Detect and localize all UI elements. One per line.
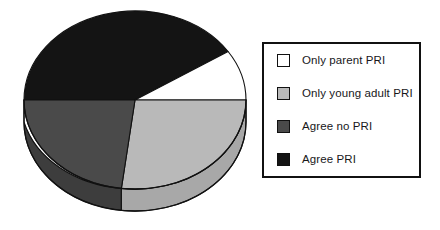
legend-label-only-young-adult-pri: Only young adult PRI xyxy=(302,88,413,100)
legend-item-only-young-adult-pri[interactable]: Only young adult PRI xyxy=(277,77,419,110)
legend-label-agree-pri: Agree PRI xyxy=(302,154,356,166)
chart-legend: Only parent PRI Only young adult PRI Agr… xyxy=(262,42,421,178)
pie-chart-figure: Only parent PRI Only young adult PRI Agr… xyxy=(0,0,440,230)
pie-slice-only-young-adult-pri xyxy=(121,100,246,189)
legend-item-only-parent-pri[interactable]: Only parent PRI xyxy=(277,44,419,77)
pie-slice-agree-no-pri xyxy=(24,100,135,188)
legend-label-agree-no-pri: Agree no PRI xyxy=(302,121,372,133)
legend-label-only-parent-pri: Only parent PRI xyxy=(302,55,385,67)
pie-top-face xyxy=(24,11,246,189)
legend-swatch-only-parent-pri xyxy=(277,54,290,67)
legend-swatch-agree-pri xyxy=(277,153,290,166)
legend-item-agree-pri[interactable]: Agree PRI xyxy=(277,143,419,176)
pie-chart-graphic xyxy=(0,0,260,230)
legend-item-agree-no-pri[interactable]: Agree no PRI xyxy=(277,110,419,143)
legend-swatch-agree-no-pri xyxy=(277,120,290,133)
legend-swatch-only-young-adult-pri xyxy=(277,87,290,100)
